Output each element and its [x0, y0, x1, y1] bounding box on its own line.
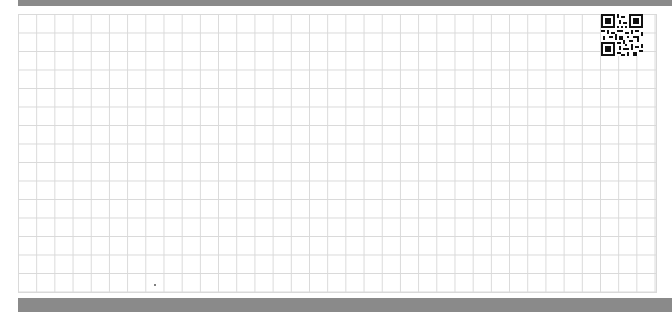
speck-mark [154, 284, 156, 286]
top-border-bar [18, 0, 672, 6]
grid-paper [18, 14, 657, 293]
bottom-border-bar [18, 298, 672, 312]
qr-code-icon [601, 14, 643, 56]
